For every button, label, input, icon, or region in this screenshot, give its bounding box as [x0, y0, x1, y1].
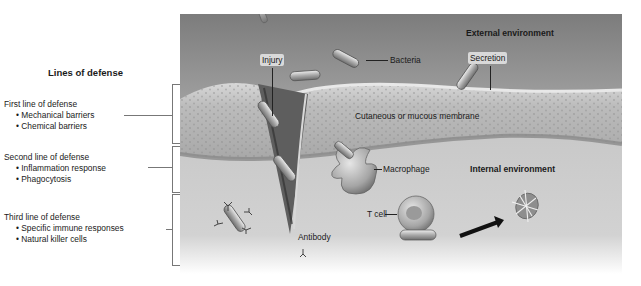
third-line-heading: Third line of defense: [0, 212, 124, 223]
defense-illustration: External environment Injury Bacteria Sec…: [180, 14, 622, 274]
macrophage-label: Macrophage: [383, 164, 430, 174]
second-line-item: Phagocytosis: [0, 174, 106, 185]
macrophage-leader: [374, 169, 382, 170]
first-line-item: Chemical barriers: [0, 121, 94, 132]
bacteria-label: Bacteria: [390, 55, 421, 65]
third-line-item: Natural killer cells: [0, 234, 124, 245]
second-line-group: Second line of defense Inflammation resp…: [0, 152, 106, 185]
bacteria-leader: [366, 60, 388, 61]
legend-title: Lines of defense: [48, 67, 123, 78]
first-line-heading: First line of defense: [0, 99, 94, 110]
first-line-item: Mechanical barriers: [0, 110, 94, 121]
tcell-label: T cell: [367, 209, 387, 219]
secretion-leader: [490, 66, 491, 90]
first-line-bracket: [172, 84, 180, 144]
second-line-bracket: [172, 146, 180, 193]
tissue-drawing: [180, 14, 622, 274]
third-line-item: Specific immune responses: [0, 223, 124, 234]
tcell-shape: [398, 196, 436, 240]
membrane-label: Cutaneous or mucous membrane: [355, 111, 479, 121]
external-environment-label: External environment: [466, 28, 554, 38]
injury-label: Injury: [260, 54, 284, 66]
third-line-bracket: [172, 194, 180, 266]
internal-environment-label: Internal environment: [470, 164, 555, 174]
first-line-group: First line of defense Mechanical barrier…: [0, 99, 94, 132]
third-line-group: Third line of defense Specific immune re…: [0, 212, 124, 245]
secretion-label: Secretion: [468, 52, 507, 64]
second-line-heading: Second line of defense: [0, 152, 106, 163]
antibody-label: Antibody: [298, 232, 331, 242]
first-line-leader: [124, 115, 172, 116]
second-line-leader: [148, 167, 172, 168]
second-line-item: Inflammation response: [0, 163, 106, 174]
injury-leader: [272, 68, 273, 116]
tcell-leader: [385, 214, 397, 215]
